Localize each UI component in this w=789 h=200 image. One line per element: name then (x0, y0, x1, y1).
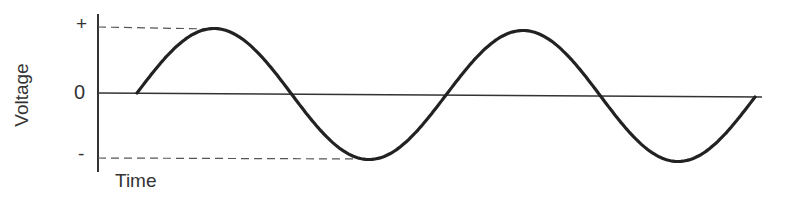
plus-tick-label: + (76, 13, 87, 35)
minus-tick-label: - (78, 143, 84, 165)
y-axis-label: Voltage (11, 63, 33, 126)
zero-axis (98, 93, 762, 97)
x-axis-label: Time (115, 170, 157, 192)
zero-tick-label: 0 (74, 81, 85, 104)
negative-peak-dashed-line (98, 158, 367, 159)
sine-wave (137, 29, 755, 162)
positive-peak-dashed-line (98, 27, 212, 29)
